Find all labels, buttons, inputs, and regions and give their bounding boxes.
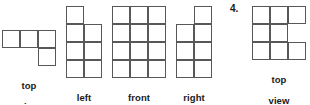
caption-line-2: view xyxy=(19,101,40,105)
grid-cell xyxy=(270,6,288,24)
grid-cell xyxy=(38,48,56,66)
grid-cell xyxy=(130,60,148,78)
grid-cell xyxy=(194,42,212,60)
worksheet-page: top view left view front view right view… xyxy=(0,0,310,104)
grid-cell xyxy=(288,42,306,60)
grid-cell xyxy=(176,24,194,42)
grid-cell xyxy=(130,24,148,42)
grid-cell xyxy=(270,42,288,60)
grid-cell xyxy=(148,60,166,78)
grid-cell xyxy=(66,6,84,24)
grid-cell xyxy=(148,6,166,24)
right-view-caption: right view xyxy=(183,82,205,104)
figure-problem4-top-view: top view xyxy=(252,6,306,104)
grid-cell xyxy=(252,42,270,60)
grid-cell xyxy=(20,30,38,48)
left-view-caption: left view xyxy=(74,82,95,104)
grid-cell xyxy=(66,24,84,42)
grid-cell xyxy=(148,24,166,42)
right-view-grid xyxy=(176,6,212,78)
figure-left-view: left view xyxy=(66,6,102,104)
problem4-top-view-caption: top view xyxy=(269,64,290,104)
caption-line-1: right xyxy=(183,92,205,103)
problem-number-4: 4. xyxy=(230,4,238,14)
caption-line-1: top xyxy=(271,74,286,85)
grid-cell xyxy=(176,42,194,60)
grid-cell xyxy=(66,60,84,78)
grid-cell xyxy=(270,24,288,42)
top-view-grid xyxy=(2,30,56,66)
grid-cell xyxy=(130,42,148,60)
figure-front-view: front view xyxy=(112,6,166,104)
grid-cell xyxy=(112,42,130,60)
grid-cell xyxy=(288,6,306,24)
grid-cell xyxy=(130,6,148,24)
grid-cell xyxy=(84,24,102,42)
caption-line-1: left xyxy=(77,92,92,103)
grid-cell xyxy=(194,6,212,24)
grid-cell xyxy=(112,60,130,78)
grid-cell xyxy=(112,24,130,42)
caption-line-2: view xyxy=(269,95,290,105)
grid-cell xyxy=(194,24,212,42)
grid-cell xyxy=(38,30,56,48)
grid-cell xyxy=(252,6,270,24)
grid-cell xyxy=(148,42,166,60)
grid-cell xyxy=(112,6,130,24)
grid-cell xyxy=(252,24,270,42)
caption-line-1: front xyxy=(128,92,150,103)
grid-cell xyxy=(66,42,84,60)
caption-line-1: top xyxy=(21,80,36,91)
grid-cell xyxy=(176,60,194,78)
grid-cell xyxy=(84,60,102,78)
figure-top-view: top view xyxy=(2,30,56,104)
grid-cell xyxy=(84,42,102,60)
grid-cell xyxy=(2,30,20,48)
front-view-caption: front view xyxy=(128,82,150,104)
left-view-grid xyxy=(66,6,102,78)
front-view-grid xyxy=(112,6,166,78)
grid-cell xyxy=(194,60,212,78)
top-view-caption: top view xyxy=(19,70,40,104)
figure-right-view: right view xyxy=(176,6,212,104)
problem4-top-view-grid xyxy=(252,6,306,60)
